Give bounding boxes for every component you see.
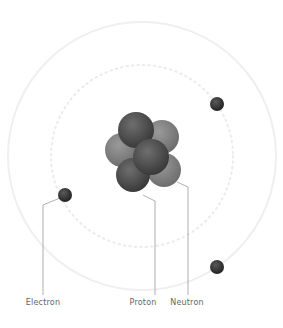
nucleus <box>105 112 181 192</box>
electron-left <box>58 188 72 202</box>
electron-top-right <box>210 97 224 111</box>
proton-leader <box>143 195 155 295</box>
proton-sphere <box>133 139 169 175</box>
electron-leader <box>43 198 60 295</box>
electron-bottom-right <box>210 260 224 274</box>
proton-label: Proton <box>130 298 157 307</box>
electron-label: Electron <box>26 298 60 307</box>
atom-diagram <box>0 0 283 328</box>
neutron-label: Neutron <box>170 298 204 307</box>
